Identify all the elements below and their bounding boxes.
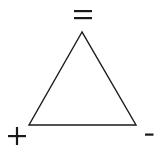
minus-sign-symbol (145, 134, 154, 136)
triangle-diagram (0, 0, 163, 154)
background (0, 0, 163, 154)
